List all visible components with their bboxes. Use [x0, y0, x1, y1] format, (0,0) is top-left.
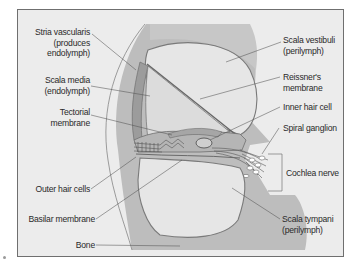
label-spiral-ganglion: Spiral ganglion [283, 123, 337, 134]
label-scala-media: Scala media (endolymph) [44, 75, 90, 96]
label-scala-vestibuli: Scala vestibuli (perilymph) [283, 35, 335, 56]
label-outer-hair-cells: Outer hair cells [35, 184, 90, 195]
inner-hair-cell-shape [196, 138, 212, 148]
margin-mark [3, 256, 6, 259]
scala-tympani-chamber [138, 158, 245, 237]
label-bone: Bone [76, 240, 95, 251]
label-reissners-membrane: Reissner's membrane [283, 72, 322, 93]
label-inner-hair-cell: Inner hair cell [283, 102, 332, 113]
label-cochlea-nerve: Cochlea nerve [286, 168, 339, 179]
label-basilar-membrane: Basilar membrane [28, 214, 95, 225]
label-tectorial-membrane: Tectorial membrane [51, 107, 90, 128]
label-stria-vascularis: Stria vascularis (produces endolymph) [35, 27, 90, 59]
cochlea-nerve-bracket [268, 154, 282, 191]
label-scala-tympani: Scala tympani (perilymph) [282, 214, 333, 235]
